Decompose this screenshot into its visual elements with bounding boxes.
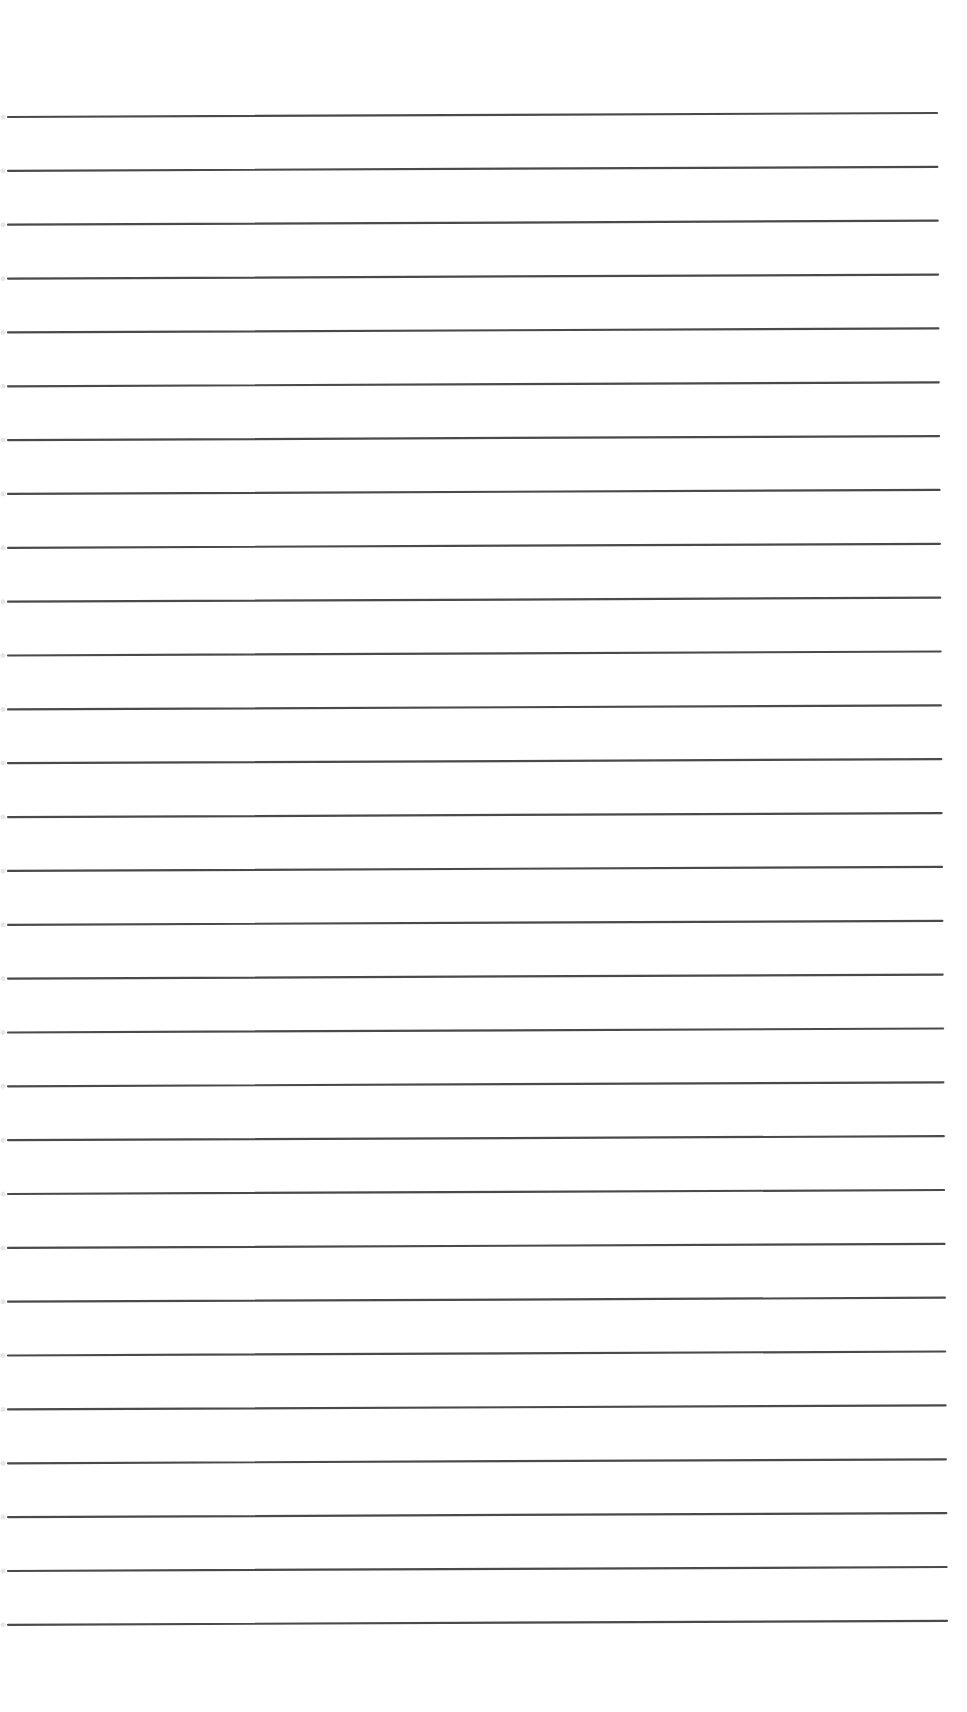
margin-mark <box>1 168 6 173</box>
margin-mark <box>1 1622 6 1627</box>
ruled-line <box>8 490 940 494</box>
margin-mark <box>1 1030 6 1035</box>
margin-mark <box>1 1299 6 1304</box>
ruled-line <box>8 1029 943 1033</box>
margin-mark <box>1 384 6 389</box>
margin-mark <box>1 545 6 550</box>
margin-mark <box>1 599 6 604</box>
margin-mark <box>1 1084 6 1089</box>
margin-mark <box>1 1138 6 1143</box>
ruled-line <box>8 1567 947 1571</box>
ruled-line <box>8 1405 946 1409</box>
margin-mark <box>1 1192 6 1197</box>
ruled-line <box>8 1298 945 1302</box>
ruled-line <box>8 598 940 602</box>
margin-mark <box>1 222 6 227</box>
margin-mark <box>1 115 6 120</box>
margin-mark <box>1 653 6 658</box>
ruled-lines <box>0 0 967 1712</box>
margin-mark <box>1 761 6 766</box>
ruled-line <box>8 1621 947 1625</box>
ruled-line <box>8 113 937 117</box>
margin-mark <box>1 1245 6 1250</box>
ruled-line <box>8 759 941 763</box>
ruled-line <box>8 705 941 709</box>
ruled-line <box>8 328 938 332</box>
margin-mark <box>1 922 6 927</box>
ruled-line <box>8 921 942 925</box>
ruled-line <box>8 867 942 871</box>
margin-mark <box>1 276 6 281</box>
margin-mark <box>1 868 6 873</box>
margin-mark <box>1 976 6 981</box>
ruled-line <box>8 221 938 225</box>
ruled-line <box>8 436 939 440</box>
ruled-line <box>8 1244 945 1248</box>
margin-mark <box>1 438 6 443</box>
margin-mark <box>1 1515 6 1520</box>
margin-mark <box>1 1461 6 1466</box>
margin-mark <box>1 1569 6 1574</box>
ruled-line <box>8 1352 945 1356</box>
ruled-line <box>8 1136 944 1140</box>
ruled-line <box>8 1459 946 1463</box>
ruled-line <box>8 382 939 386</box>
margin-mark <box>1 815 6 820</box>
margin-mark <box>1 1353 6 1358</box>
ruled-line <box>8 275 938 279</box>
ruled-line <box>8 975 943 979</box>
ruled-line <box>8 652 941 656</box>
ruled-line <box>8 1190 944 1194</box>
lined-paper-sheet <box>0 0 967 1712</box>
margin-mark <box>1 330 6 335</box>
margin-mark <box>1 707 6 712</box>
ruled-line <box>8 1513 946 1517</box>
ruled-line <box>8 1082 943 1086</box>
margin-mark <box>1 1407 6 1412</box>
margin-mark <box>1 491 6 496</box>
ruled-line <box>8 813 942 817</box>
ruled-line <box>8 167 937 171</box>
ruled-line <box>8 544 940 548</box>
